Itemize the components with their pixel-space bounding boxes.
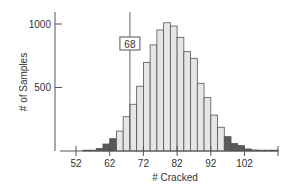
histogram-bar — [238, 146, 245, 151]
histogram-bar — [143, 62, 150, 151]
y-ticks: 5001000 — [29, 19, 62, 94]
histogram-bar — [197, 83, 204, 151]
histogram-bar — [191, 58, 198, 151]
histogram-bar — [177, 37, 184, 151]
histogram-bar — [103, 144, 110, 151]
x-tick-label: 92 — [205, 158, 217, 169]
histogram-bar — [150, 45, 157, 151]
histogram-bar — [218, 127, 225, 151]
histogram-bar — [123, 117, 130, 151]
histogram-bar — [137, 86, 144, 151]
histogram-bar — [231, 143, 238, 151]
histogram-bar — [164, 23, 171, 151]
histogram-bar — [170, 26, 177, 151]
histogram-bar — [116, 131, 123, 151]
histogram-bars — [83, 23, 278, 151]
histogram-bar — [211, 115, 218, 151]
histogram-bar — [204, 98, 211, 151]
histogram-bar — [184, 52, 191, 151]
histogram-bar — [110, 139, 117, 151]
histogram-bar — [130, 104, 137, 151]
y-tick-label: 500 — [34, 82, 51, 93]
histogram-chart: 5001000 5262728292102 # Cracked # of Sam… — [0, 0, 293, 193]
y-axis-label: # of Samples — [18, 53, 29, 111]
histogram-bar — [157, 30, 164, 151]
histogram-bar — [224, 137, 231, 151]
x-tick-label: 62 — [104, 158, 116, 169]
x-axis-label: # Cracked — [152, 172, 198, 183]
y-tick-label: 1000 — [29, 19, 52, 30]
x-tick-label: 52 — [70, 158, 82, 169]
x-tick-label: 82 — [172, 158, 184, 169]
x-tick-label: 102 — [236, 158, 253, 169]
x-tick-label: 72 — [138, 158, 150, 169]
marker-label: 68 — [124, 39, 136, 50]
